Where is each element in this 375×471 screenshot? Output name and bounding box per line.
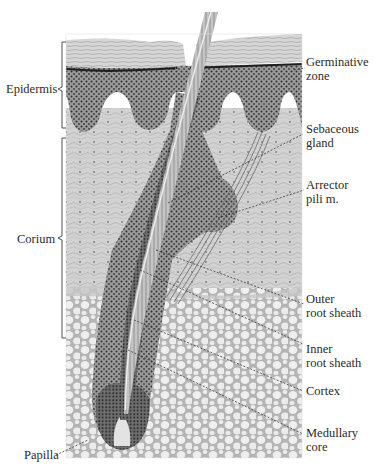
label-sebaceous-line1: Sebaceous	[306, 122, 359, 136]
label-arrector-line1: Arrector	[306, 178, 348, 192]
stratum-corneum	[66, 38, 186, 68]
label-outer-root-sheath: Outer root sheath	[306, 292, 361, 320]
hair-follicle-figure: Epidermis Corium Papilla Germinative zon…	[0, 0, 375, 471]
label-germinative-zone: Germinative zone	[306, 55, 368, 83]
label-germinative-line1: Germinative	[306, 55, 368, 69]
label-inner-root-sheath: Inner root sheath	[306, 342, 361, 370]
epidermis-bracket	[58, 42, 66, 128]
label-medullary-line1: Medullary	[306, 426, 358, 440]
label-arrector-line2: pili m.	[306, 192, 348, 206]
label-epidermis: Epidermis	[6, 82, 57, 96]
label-medullary-line2: core	[306, 440, 358, 454]
label-inner-line1: Inner	[306, 342, 361, 356]
label-inner-line2: root sheath	[306, 356, 361, 370]
label-corium: Corium	[17, 232, 55, 246]
label-germinative-line2: zone	[306, 69, 368, 83]
label-sebaceous-line2: gland	[306, 136, 359, 150]
label-medullary-core: Medullary core	[306, 426, 358, 454]
corium-bracket	[58, 138, 66, 338]
label-sebaceous-gland: Sebaceous gland	[306, 122, 359, 150]
label-outer-line1: Outer	[306, 292, 361, 306]
label-papilla: Papilla	[24, 448, 59, 462]
label-outer-line2: root sheath	[306, 306, 361, 320]
label-cortex: Cortex	[306, 384, 340, 398]
label-arrector-pili: Arrector pili m.	[306, 178, 348, 206]
